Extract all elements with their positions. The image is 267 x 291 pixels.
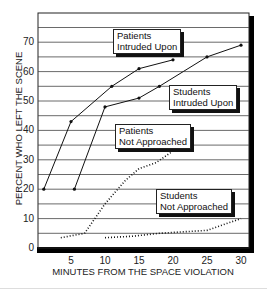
divider [0,288,267,289]
y-tick-label: 60 [20,67,34,77]
data-point [73,188,76,191]
callout-patients-not-approached: Patients Not Approached [115,124,191,149]
data-point [103,105,106,108]
y-tick-label: 10 [20,214,34,224]
series-line-students-not-approached [105,219,241,238]
frame-shadow-right [249,16,254,253]
x-axis-title: MINUTES FROM THE SPACE VIOLATION [38,266,248,277]
x-tick-label: 20 [163,256,183,266]
y-tick-label: 50 [20,96,34,106]
callout-patients-intruded-upon: Patients Intruded Upon [113,29,181,54]
data-point [158,85,161,88]
data-point [171,58,174,61]
data-point [137,96,140,99]
data-point [110,85,113,88]
callout-students-intruded-upon: Students Intruded Upon [169,85,237,110]
data-point [42,188,45,191]
y-tick-label: 20 [20,184,34,194]
x-tick-label: 5 [61,256,81,266]
data-point [239,44,242,47]
y-tick-label: 40 [20,125,34,135]
data-point [137,67,140,70]
data-point [205,55,208,58]
data-point [69,120,72,123]
y-tick-label: 70 [20,37,34,47]
x-tick-label: 30 [231,256,251,266]
chart: PERCENT WHO LEFT THE SCENE MINUTES FROM … [0,0,267,291]
x-tick-label: 10 [95,256,115,266]
x-tick-label: 25 [197,256,217,266]
x-tick-label: 15 [129,256,149,266]
y-tick-label: 30 [20,155,34,165]
series-line-students-intruded-upon [74,45,241,189]
callout-students-not-approached: Students Not Approached [156,189,232,214]
y-tick-label: 0 [20,243,34,253]
